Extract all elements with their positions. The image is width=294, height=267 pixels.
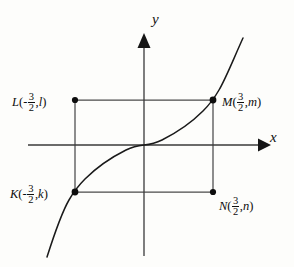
paren-close-l: ) [42, 95, 46, 109]
point-name-m: M [222, 95, 232, 109]
sign-k: - [23, 187, 27, 201]
point-label-m: M(32,m) [222, 92, 261, 114]
point-name-l: L [12, 95, 19, 109]
fraction-denominator-k: 2 [27, 195, 34, 206]
y-axis-arrow-icon [138, 33, 151, 48]
fraction-l: 32 [28, 92, 35, 114]
y-axis-label: y [152, 11, 159, 28]
x-axis [28, 139, 271, 152]
fraction-n: 32 [232, 196, 239, 218]
point-label-n: N(32,n) [219, 196, 253, 218]
sign-l: - [23, 95, 27, 109]
paren-close-n: ) [249, 199, 253, 213]
fraction-m: 32 [237, 92, 244, 114]
paren-close-m: ) [257, 95, 261, 109]
point-marker-k [72, 189, 79, 196]
fraction-denominator-l: 2 [28, 103, 35, 114]
paren-open-n: ( [227, 199, 231, 213]
coordinate-figure [0, 0, 294, 267]
point-marker-n [210, 189, 216, 195]
point-marker-l [72, 97, 78, 103]
paren-close-k: ) [44, 187, 48, 201]
figure-container: y x L(-32,l) M(32,m) K(-32,k) N(32,n) [0, 0, 294, 267]
x-axis-label: x [270, 129, 277, 146]
ordinate-m: m [248, 95, 257, 109]
point-label-l: L(-32,l) [12, 92, 46, 114]
point-label-k: K(-32,k) [10, 184, 48, 206]
fraction-denominator-m: 2 [237, 103, 244, 114]
point-marker-m [210, 97, 217, 104]
fraction-k: 32 [27, 184, 34, 206]
paren-open-m: ( [232, 95, 236, 109]
fraction-denominator-n: 2 [232, 207, 239, 218]
